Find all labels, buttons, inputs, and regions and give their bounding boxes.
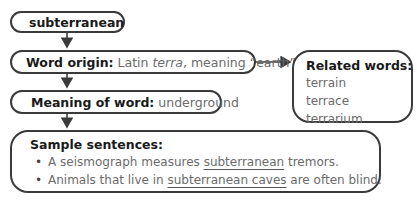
- word-origin-latin: terra: [152, 55, 183, 70]
- underlined-word: subterranean caves: [168, 173, 287, 187]
- meaning-label: Meaning of word:: [31, 95, 154, 110]
- related-words-box: Related words: terrain terrace terrarium: [292, 50, 413, 123]
- related-word: terrarium: [306, 110, 412, 128]
- word-origin-suffix: , meaning “earth”: [183, 55, 296, 70]
- word-origin-line: Word origin: Latin terra, meaning “earth…: [26, 55, 296, 70]
- sentence-item: A seismograph measures subterranean trem…: [30, 153, 382, 171]
- sample-sentences-label: Sample sentences:: [30, 136, 382, 153]
- word-text: subterranean: [29, 15, 124, 30]
- sentence-item: Animals that live in subterranean caves …: [30, 171, 382, 189]
- word-origin-prefix: Latin: [118, 55, 153, 70]
- related-word: terrace: [306, 92, 412, 110]
- related-word: terrain: [306, 74, 412, 92]
- related-words-label: Related words:: [306, 58, 412, 74]
- word-box: subterranean: [10, 11, 125, 33]
- sample-sentences-box: Sample sentences: A seismograph measures…: [10, 130, 381, 193]
- word-origin-box: Word origin: Latin terra, meaning “earth…: [10, 50, 256, 74]
- meaning-line: Meaning of word: underground: [31, 95, 239, 110]
- word-origin-label: Word origin:: [26, 55, 114, 70]
- meaning-box: Meaning of word: underground: [10, 90, 222, 114]
- underlined-word: subterranean: [204, 155, 285, 169]
- sentence-list: A seismograph measures subterranean trem…: [30, 153, 382, 189]
- meaning-text: underground: [158, 95, 239, 110]
